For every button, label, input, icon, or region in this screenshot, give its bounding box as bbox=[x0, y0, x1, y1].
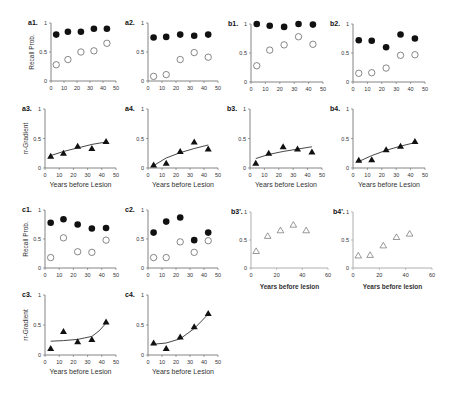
y-tick-label: 0.5 bbox=[341, 136, 349, 142]
x-tick-label: 10 bbox=[56, 172, 62, 178]
x-tick-label: 0 bbox=[146, 85, 149, 91]
panel-label: a1. bbox=[28, 19, 38, 26]
data-point-filled-triangle bbox=[252, 160, 259, 166]
data-point-filled-circle bbox=[65, 28, 72, 35]
y-tick-label: 0 bbox=[243, 165, 246, 171]
x-tick-label: 40 bbox=[201, 85, 207, 91]
x-tick-label: 50 bbox=[215, 172, 221, 178]
y-tick-label: 0.5 bbox=[136, 322, 144, 328]
x-tick-label: 40 bbox=[408, 86, 414, 92]
y-tick-label: 0 bbox=[141, 352, 144, 358]
x-axis-label: Years before Lesion bbox=[255, 181, 317, 188]
x-tick-label: 10 bbox=[159, 272, 165, 278]
data-point-filled-triangle bbox=[103, 138, 110, 144]
data-point-filled-circle bbox=[89, 225, 96, 232]
data-point-filled-circle bbox=[177, 214, 184, 221]
data-point-open-circle bbox=[163, 254, 169, 260]
y-tick-label: 0 bbox=[141, 265, 144, 271]
panel-c3: 00.5101020304050c3.rr-GradientYears befo… bbox=[22, 291, 119, 375]
fit-curve bbox=[154, 314, 209, 344]
x-tick-label: 20 bbox=[379, 86, 385, 92]
data-point-open-circle bbox=[74, 249, 80, 255]
data-point-filled-circle bbox=[47, 219, 54, 226]
y-tick-label: 0.5 bbox=[39, 49, 47, 55]
panel-label: c3. bbox=[22, 291, 32, 298]
x-tick-label: 20 bbox=[173, 359, 179, 365]
y-tick-label: 1 bbox=[44, 20, 47, 26]
y-tick-label: 1 bbox=[141, 106, 144, 112]
y-tick-label: 0.5 bbox=[239, 237, 247, 243]
y-tick-label: 1 bbox=[346, 106, 349, 112]
x-tick-label: 30 bbox=[85, 272, 91, 278]
panel-a4: 00.5101020304050a4.Years before Lesion bbox=[125, 105, 221, 188]
data-point-filled-circle bbox=[191, 32, 198, 39]
panel-label: b3'. bbox=[231, 208, 243, 215]
data-point-open-circle bbox=[89, 249, 95, 255]
data-point-filled-circle bbox=[78, 28, 85, 35]
data-point-open-triangle bbox=[290, 222, 297, 228]
data-point-open-circle bbox=[412, 52, 418, 58]
panel-a1: 00.5101020304050a1.Recall Prob. bbox=[28, 19, 119, 91]
data-point-open-circle bbox=[177, 239, 183, 245]
data-point-filled-circle bbox=[281, 24, 288, 31]
x-tick-label: 10 bbox=[364, 86, 370, 92]
x-axis-label: Years before lesion bbox=[363, 283, 423, 290]
panel-label: c1. bbox=[22, 206, 32, 213]
data-point-filled-triangle bbox=[163, 345, 170, 351]
x-axis-label: Years before Lesion bbox=[358, 181, 420, 188]
data-point-filled-circle bbox=[91, 26, 98, 33]
panel-label: a3. bbox=[22, 105, 32, 112]
x-axis-label: Years before Lesion bbox=[152, 368, 214, 375]
x-tick-label: 60 bbox=[325, 272, 331, 278]
x-tick-label: 10 bbox=[61, 85, 67, 91]
x-tick-label: 0 bbox=[351, 272, 354, 278]
data-point-filled-circle bbox=[60, 216, 67, 223]
data-point-filled-triangle bbox=[308, 149, 315, 155]
fit-curve bbox=[154, 145, 209, 166]
x-axis-label: Years before Lesion bbox=[49, 368, 111, 375]
data-point-filled-triangle bbox=[205, 310, 212, 316]
panel-b1: 00.5101020304050b1. bbox=[228, 20, 326, 92]
x-tick-label: 0 bbox=[351, 86, 354, 92]
data-point-filled-circle bbox=[368, 38, 375, 45]
data-point-filled-circle bbox=[163, 218, 170, 225]
data-point-open-circle bbox=[103, 237, 109, 243]
y-tick-label: 0.5 bbox=[136, 136, 144, 142]
data-point-open-circle bbox=[91, 48, 97, 54]
panel-label: b1. bbox=[228, 20, 238, 27]
x-tick-label: 40 bbox=[100, 85, 106, 91]
fit-curve bbox=[51, 323, 106, 341]
x-tick-label: 10 bbox=[261, 172, 267, 178]
y-tick-label: 1 bbox=[346, 209, 349, 215]
data-point-open-circle bbox=[65, 56, 71, 62]
x-tick-label: 50 bbox=[422, 172, 428, 178]
data-point-open-triangle bbox=[367, 252, 374, 258]
data-point-open-circle bbox=[267, 47, 273, 53]
data-point-filled-circle bbox=[310, 21, 317, 28]
y-tick-label: 0 bbox=[38, 165, 41, 171]
x-tick-label: 0 bbox=[43, 172, 46, 178]
x-tick-label: 20 bbox=[70, 272, 76, 278]
x-tick-label: 0 bbox=[43, 359, 46, 365]
figure-canvas: 00.5101020304050a1.Recall Prob.00.510102… bbox=[0, 0, 453, 397]
x-tick-label: 30 bbox=[85, 359, 91, 365]
data-point-filled-circle bbox=[412, 35, 419, 42]
x-tick-label: 40 bbox=[99, 172, 105, 178]
data-point-filled-circle bbox=[103, 225, 110, 232]
x-tick-label: 50 bbox=[320, 86, 326, 92]
data-point-open-circle bbox=[177, 56, 183, 62]
panel-b2: 00.5101020304050b2. bbox=[330, 20, 428, 92]
y-axis-label: rr-Gradient bbox=[22, 123, 29, 155]
x-tick-label: 40 bbox=[306, 86, 312, 92]
y-tick-label: 0.5 bbox=[238, 136, 246, 142]
y-tick-label: 0 bbox=[141, 165, 144, 171]
x-tick-label: 30 bbox=[85, 172, 91, 178]
data-point-filled-triangle bbox=[150, 340, 157, 346]
x-tick-label: 20 bbox=[74, 85, 80, 91]
panel-b3: 00.5101020304050b3.Years before Lesion bbox=[227, 105, 325, 188]
x-tick-label: 50 bbox=[113, 172, 119, 178]
x-tick-label: 0 bbox=[146, 272, 149, 278]
data-point-filled-triangle bbox=[191, 139, 198, 145]
panel-label: b2. bbox=[330, 20, 340, 27]
y-tick-label: 1 bbox=[244, 209, 247, 215]
